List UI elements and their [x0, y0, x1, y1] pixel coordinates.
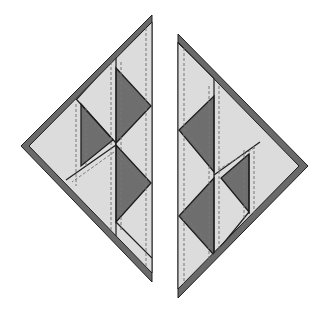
left-setting-triangle [21, 15, 152, 282]
quilt-diagram [0, 0, 322, 317]
right-setting-triangle [178, 34, 308, 298]
